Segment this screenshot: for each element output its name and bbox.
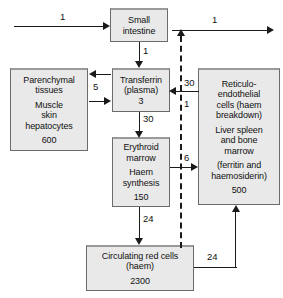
box-erythroid-marrow-line-2: marrow — [126, 153, 155, 164]
arrowhead-re-to-transferrin — [169, 87, 176, 95]
arrow-transferrin-to-parenchymal — [96, 74, 111, 75]
box-reticuloendothelial-line-4: breakdown) — [216, 110, 262, 121]
box-erythroid-marrow: Erythroid marrow Haem synthesis 150 — [112, 137, 170, 207]
box-reticuloendothelial-line-3: cells (haem — [217, 100, 262, 111]
flux-label-dietary-absorption: 1 — [60, 12, 65, 22]
arrow-marrow-to-redcells — [139, 207, 140, 239]
arrowhead-dietary-absorption — [103, 22, 110, 30]
box-transferrin-value: 3 — [139, 96, 144, 107]
arrow-parenchymal-to-transferrin — [89, 101, 105, 102]
box-small-intestine: Small intestine — [110, 8, 168, 42]
flux-label-redcells-to-re: 24 — [207, 252, 218, 262]
box-small-intestine-line-1: Small — [128, 15, 150, 26]
flux-label-dashed-recycle: 1 — [184, 99, 189, 109]
arrowhead-iron-loss — [267, 26, 274, 34]
arrowhead-intestine-to-transferrin — [135, 61, 143, 68]
flux-label-transferrin-to-marrow: 30 — [143, 114, 154, 124]
arrow-dietary-absorption — [14, 26, 104, 27]
flux-label-marrow-to-redcells: 24 — [143, 214, 154, 224]
box-erythroid-marrow-value: 150 — [134, 192, 149, 203]
box-reticuloendothelial-value: 500 — [232, 185, 247, 196]
arrowhead-marrow-to-re — [191, 163, 198, 171]
box-transferrin-line-1: Transferrin — [120, 75, 162, 86]
flux-label-parenchymal-exchange: 5 — [93, 82, 98, 92]
box-erythroid-marrow-line-3: Haem — [129, 167, 153, 178]
arrowhead-dashed-recycle — [177, 29, 185, 36]
box-reticuloendothelial-line-9: haemosiderin) — [211, 171, 267, 182]
box-transferrin: Transferrin (plasma) 3 — [112, 68, 170, 112]
box-parenchymal-tissues-line-3: Muscle — [35, 100, 63, 111]
iron-metabolism-diagram: Small intestine Parenchymal tissues Musc… — [0, 0, 283, 298]
arrow-transferrin-to-marrow — [139, 112, 140, 132]
arrowhead-redcells-to-re — [232, 205, 240, 212]
box-circulating-red-cells: Circulating red cells (haem) 2300 — [86, 245, 194, 291]
arrow-redcells-to-re-vertical — [235, 212, 236, 268]
box-parenchymal-tissues-line-1: Parenchymal — [23, 75, 74, 86]
box-parenchymal-tissues: Parenchymal tissues Muscle skin hepatocy… — [10, 68, 88, 151]
arrow-redcells-to-re-horizontal — [194, 267, 237, 268]
arrow-intestine-to-transferrin — [139, 42, 140, 62]
box-circulating-red-cells-line-2: (haem) — [126, 261, 154, 272]
box-transferrin-line-2: (plasma) — [124, 85, 158, 96]
box-reticuloendothelial-line-2: endothelial — [218, 89, 260, 100]
arrowhead-marrow-to-redcells — [135, 238, 143, 245]
box-parenchymal-tissues-line-4: skin — [41, 110, 57, 121]
arrowhead-transferrin-to-parenchymal — [89, 70, 96, 78]
arrow-iron-loss — [172, 30, 268, 31]
box-reticuloendothelial-line-6: and bone — [221, 135, 258, 146]
arrow-marrow-to-re — [170, 167, 192, 168]
box-reticuloendothelial-line-8: (ferritin and — [217, 160, 261, 171]
box-parenchymal-tissues-line-5: hepatocytes — [25, 121, 72, 132]
flux-label-marrow-to-re: 6 — [184, 153, 189, 163]
flux-label-iron-loss: 1 — [212, 15, 217, 25]
flux-label-re-to-transferrin: 30 — [184, 78, 195, 88]
arrowhead-transferrin-to-marrow — [135, 131, 143, 138]
box-circulating-red-cells-value: 2300 — [130, 276, 150, 287]
box-reticuloendothelial-line-5: Liver spleen — [215, 125, 262, 136]
dashed-recycle-line — [180, 36, 182, 248]
box-reticuloendothelial: Reticulo- endothelial cells (haem breakd… — [198, 68, 280, 205]
box-parenchymal-tissues-value: 600 — [42, 135, 57, 146]
box-parenchymal-tissues-line-2: tissues — [35, 85, 62, 96]
box-erythroid-marrow-line-1: Erythroid — [123, 142, 158, 153]
box-small-intestine-line-2: intestine — [123, 26, 156, 37]
box-reticuloendothelial-line-1: Reticulo- — [222, 79, 257, 90]
flux-label-intestine-to-transferrin: 1 — [143, 46, 148, 56]
arrowhead-parenchymal-to-transferrin — [104, 97, 111, 105]
box-reticuloendothelial-line-7: marrow — [224, 146, 253, 157]
box-erythroid-marrow-line-4: synthesis — [123, 178, 160, 189]
box-circulating-red-cells-line-1: Circulating red cells — [102, 251, 178, 262]
